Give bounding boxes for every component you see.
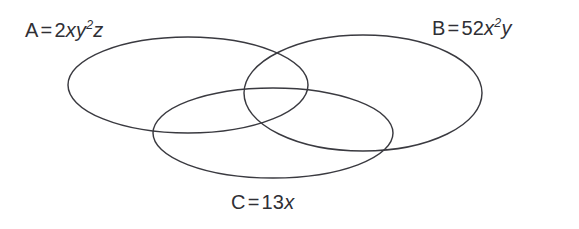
set-c-variable-x: x [284,191,294,213]
set-a-variable-z: z [93,19,103,41]
set-b-equals: = [446,17,462,39]
set-b-label: B=52x2y [432,18,512,38]
set-a-label: A=2xy2z [25,20,103,40]
set-b-coefficient: 52 [461,17,484,39]
set-b-variable-y: y [501,17,511,39]
set-b-ellipse [244,35,482,151]
set-a-coefficient: 2 [54,19,65,41]
set-a-equals: = [39,19,55,41]
set-c-letter: C [231,191,246,213]
set-a-variable-x: x [66,19,76,41]
set-b-letter: B [432,17,446,39]
set-b-variable-x: x [484,17,494,39]
venn-diagram-figure: A=2xy2z B=52x2y C=13x [0,0,579,229]
set-a-letter: A [25,19,39,41]
set-c-equals: = [246,191,262,213]
set-a-ellipse [68,37,308,133]
set-a-variable-y: y [76,19,86,41]
set-c-label: C=13x [231,192,294,212]
set-c-coefficient: 13 [262,191,285,213]
